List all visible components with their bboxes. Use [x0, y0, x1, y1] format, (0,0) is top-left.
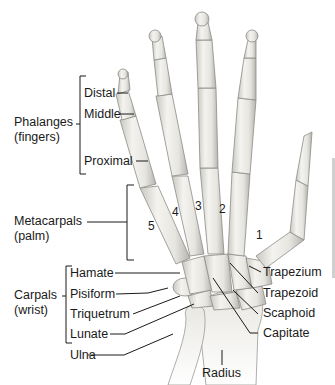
- carpal-bones: [173, 254, 272, 310]
- label-proximal: Proximal: [84, 154, 133, 168]
- phalanges-title: Phalanges: [14, 115, 73, 130]
- metacarpals-subtitle: (palm): [14, 229, 82, 244]
- ulna-bone: [168, 305, 205, 385]
- metacarpal-number-2: 2: [219, 203, 226, 216]
- metacarpals-title: Metacarpals: [14, 214, 82, 229]
- label-trapezoid: Trapezoid: [263, 286, 318, 300]
- carpals-title: Carpals: [14, 288, 57, 303]
- group-label-carpals: Carpals (wrist): [14, 288, 57, 318]
- label-ulna: Ulna: [70, 348, 96, 362]
- label-trapezium: Trapezium: [263, 265, 322, 279]
- metacarpals-bracket: [127, 185, 134, 260]
- label-lunate: Lunate: [70, 327, 108, 341]
- label-radius: Radius: [202, 366, 241, 380]
- label-distal: Distal: [84, 86, 115, 100]
- label-hamate: Hamate: [70, 266, 114, 280]
- label-scaphoid: Scaphoid: [263, 306, 315, 320]
- metacarpal-2: [228, 172, 250, 256]
- label-triquetrum: Triquetrum: [70, 307, 130, 321]
- carpals-subtitle: (wrist): [14, 303, 57, 318]
- metacarpal-number-3: 3: [195, 200, 202, 213]
- metacarpal-1: [256, 232, 304, 268]
- label-capitate: Capitate: [263, 326, 310, 340]
- metacarpal-number-5: 5: [148, 220, 155, 233]
- label-middle: Middle: [84, 107, 121, 121]
- metacarpal-number-4: 4: [172, 206, 179, 219]
- phalanges-subtitle: (fingers): [14, 130, 73, 145]
- group-label-phalanges: Phalanges (fingers): [14, 115, 73, 145]
- metacarpal-bones: [140, 168, 304, 268]
- label-pisiform: Pisiform: [70, 287, 115, 301]
- group-label-metacarpals: Metacarpals (palm): [14, 214, 82, 244]
- metacarpal-number-1: 1: [256, 229, 263, 242]
